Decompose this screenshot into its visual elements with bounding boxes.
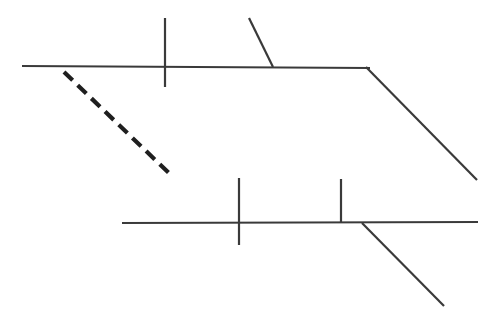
- diagram-background: [0, 0, 496, 323]
- diagram-canvas: [0, 0, 496, 323]
- line-diagram-svg: [0, 0, 496, 323]
- lower-horizontal-line: [122, 222, 478, 223]
